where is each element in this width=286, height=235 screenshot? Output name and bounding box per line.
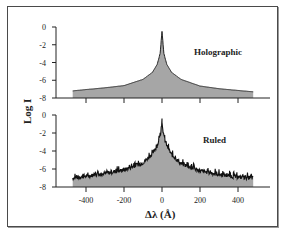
top-y-ticks: 0-2-4-6-8	[39, 23, 56, 103]
y-tick-label: -6	[39, 76, 46, 85]
x-tick-label: 0	[160, 196, 164, 205]
y-tick-label: -2	[39, 41, 46, 50]
bottom-x-ticks: -400-2000200400	[79, 187, 244, 205]
holographic-panel: 0-2-4-6-8 Holographic	[39, 23, 270, 103]
y-tick-label: -8	[39, 183, 46, 192]
y-tick-label: 0	[42, 111, 46, 120]
x-tick-label: 200	[194, 196, 206, 205]
y-tick-label: -4	[39, 59, 46, 68]
ruled-label: Ruled	[203, 135, 226, 145]
x-tick-label: -200	[117, 196, 132, 205]
bottom-y-ticks: 0-2-4-6-8	[39, 111, 56, 192]
holographic-label: Holographic	[194, 47, 242, 57]
top-x-ticks	[86, 98, 238, 103]
y-tick-label: -6	[39, 165, 46, 174]
x-axis-title: Δλ (Å)	[145, 208, 176, 221]
y-axis-title: Log I	[21, 99, 33, 124]
y-tick-label: -2	[39, 129, 46, 138]
x-tick-label: 400	[232, 196, 244, 205]
ruled-panel: 0-2-4-6-8 -400-2000200400 Ruled	[39, 111, 270, 205]
y-tick-label: -8	[39, 94, 46, 103]
spectrum-chart: 0-2-4-6-8 Holographic 0-2-4-6-8 -400-200…	[0, 0, 286, 235]
y-tick-label: 0	[42, 23, 46, 32]
x-tick-label: -400	[79, 196, 94, 205]
y-tick-label: -4	[39, 147, 46, 156]
